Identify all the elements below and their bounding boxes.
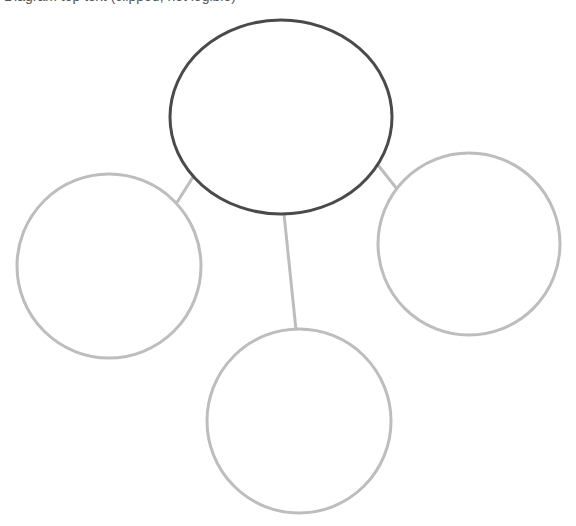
central-node[interactable]	[170, 20, 392, 214]
branch-node-right[interactable]	[378, 153, 560, 335]
central-ellipse[interactable]	[170, 20, 392, 214]
connector-line-right	[378, 165, 397, 189]
connector-line-left	[176, 177, 193, 204]
branch-circle-left[interactable]	[17, 174, 201, 358]
bubble-map-diagram	[0, 0, 576, 526]
connector-line-bottom	[284, 214, 296, 330]
branch-circle-right[interactable]	[378, 153, 560, 335]
branch-node-bottom[interactable]	[207, 329, 391, 513]
branch-node-left[interactable]	[17, 174, 201, 358]
branch-circle-bottom[interactable]	[207, 329, 391, 513]
